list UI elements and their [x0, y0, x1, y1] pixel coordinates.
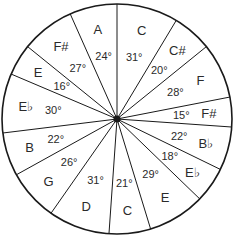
sector-note-label: C	[137, 23, 146, 38]
sector-degree-label: 31°	[87, 174, 104, 186]
sector-degree-label: 30°	[45, 104, 62, 116]
sector-degree-label: 18°	[161, 150, 178, 162]
sector-note-label: C#	[169, 43, 186, 58]
circle-svg: C31°C#20°F28°F#15°B♭22°E♭18°E29°C21°D31°…	[0, 0, 233, 237]
sector-degree-label: 29°	[142, 168, 159, 180]
sector-degree-label: 21°	[116, 177, 133, 189]
sector-note-label: A	[94, 22, 103, 37]
sector-note-label: E♭	[185, 165, 200, 180]
sector-degree-label: 22°	[171, 130, 188, 142]
sector-degree-label: 27°	[69, 62, 86, 74]
sector-note-label: E♭	[19, 99, 34, 114]
sector-degree-label: 20°	[151, 64, 168, 76]
sector-note-label: F#	[53, 39, 69, 54]
sector-degree-label: 24°	[95, 50, 112, 62]
sector-note-label: F	[196, 73, 204, 88]
sector-degree-label: 28°	[167, 86, 184, 98]
sector-note-label: G	[44, 174, 54, 189]
sector-note-label: F#	[201, 106, 217, 121]
sector-degree-label: 31°	[126, 51, 143, 63]
sector-note-label: B♭	[199, 136, 214, 151]
sector-note-label: E	[161, 190, 170, 205]
sector-note-label: C	[123, 203, 132, 218]
sector-degree-label: 15°	[173, 109, 190, 121]
sector-note-label: B	[25, 140, 34, 155]
sector-degree-label: 16°	[53, 80, 70, 92]
center-hub	[114, 116, 121, 123]
sector-note-label: D	[82, 199, 91, 214]
note-circle-diagram: C31°C#20°F28°F#15°B♭22°E♭18°E29°C21°D31°…	[0, 0, 233, 237]
sector-degree-label: 22°	[47, 133, 64, 145]
sector-note-label: E	[34, 65, 43, 80]
sector-degree-label: 26°	[61, 156, 78, 168]
